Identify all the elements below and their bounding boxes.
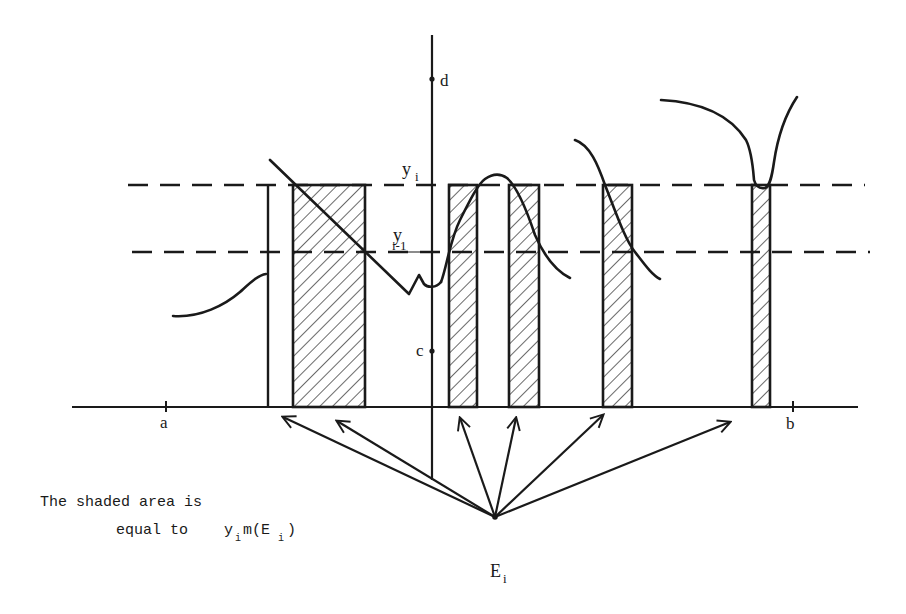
caption-close: )	[287, 522, 296, 539]
label-c: c	[416, 341, 424, 360]
caption-line-2-prefix: equal to	[116, 522, 188, 539]
caption-m: m(E	[243, 522, 270, 539]
label-E-i-sub: i	[503, 571, 507, 586]
caption-y-sub: i	[235, 533, 241, 544]
tick-d	[429, 76, 434, 81]
label-y-i-main: y	[402, 159, 411, 179]
arrow-4	[495, 418, 516, 517]
label-y-i-minus-1: y i-1	[391, 225, 425, 253]
lebesgue-integral-diagram: d c a b y i y i-1 E i The shaded area is…	[0, 0, 906, 614]
source-point	[492, 514, 498, 520]
curve-piece-dip	[661, 97, 797, 188]
arrow-1	[283, 417, 495, 517]
arrows	[283, 415, 730, 517]
label-y-i-sub: i	[415, 169, 419, 184]
arrow-6	[495, 422, 730, 517]
label-y-i: y i	[402, 159, 419, 184]
label-d: d	[440, 71, 449, 90]
tick-c	[429, 348, 434, 353]
label-a: a	[160, 413, 168, 432]
label-E-i-main: E	[490, 561, 501, 581]
shaded-bar-5	[752, 185, 770, 407]
shaded-regions	[293, 185, 770, 407]
caption-line-1: The shaded area is	[40, 494, 202, 511]
curve-piece-left	[173, 274, 266, 316]
shaded-bar-3	[509, 185, 539, 407]
arrow-2	[337, 421, 495, 517]
caption-y: y	[224, 522, 233, 539]
function-curve	[173, 97, 797, 316]
caption-E-sub: i	[278, 533, 284, 544]
caption: The shaded area is equal to y i m(E i )	[40, 494, 296, 544]
shaded-bar-2	[449, 185, 477, 407]
label-b: b	[786, 414, 795, 433]
label-E-i: E i	[490, 561, 507, 586]
arrow-5	[495, 415, 603, 517]
label-y-i-1-sub: i-1	[392, 238, 406, 253]
